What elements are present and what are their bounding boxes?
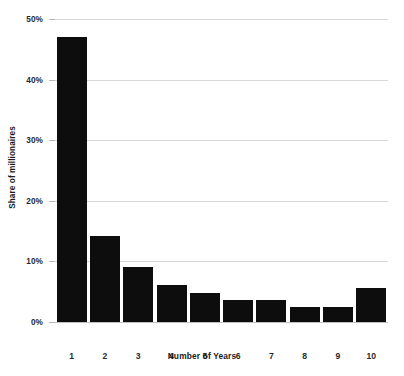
bar (57, 37, 87, 322)
y-axis-tick-label: 50% (0, 15, 43, 24)
y-axis-tick-label: 30% (0, 136, 43, 145)
bar-chart: Share of millionaires 0%10%20%30%40%50%1… (0, 0, 404, 376)
y-axis-title: Share of millionaires (4, 112, 20, 222)
y-axis-tick-label: 40% (0, 75, 43, 84)
bar (190, 293, 220, 322)
y-axis-tick (49, 322, 55, 323)
bar (223, 300, 253, 322)
bar (90, 236, 120, 322)
gridline (55, 19, 388, 20)
x-axis-title: Number of Years (0, 351, 404, 361)
y-axis-tick-label: 10% (0, 257, 43, 266)
gridline (55, 80, 388, 81)
y-axis-tick (49, 140, 55, 141)
bar (157, 285, 187, 322)
plot-area: 0%10%20%30%40%50%12345678910 (55, 19, 388, 322)
y-axis-tick (49, 80, 55, 81)
y-axis-tick (49, 201, 55, 202)
bar (356, 288, 386, 322)
y-axis-tick-label: 20% (0, 196, 43, 205)
y-axis-tick-label: 0% (0, 318, 43, 327)
gridline (55, 201, 388, 202)
y-axis-tick (49, 19, 55, 20)
y-axis-tick (49, 261, 55, 262)
gridline (55, 140, 388, 141)
bar (123, 267, 153, 322)
bar (290, 307, 320, 322)
gridline (55, 322, 388, 323)
bar (323, 307, 353, 322)
bar (256, 300, 286, 322)
